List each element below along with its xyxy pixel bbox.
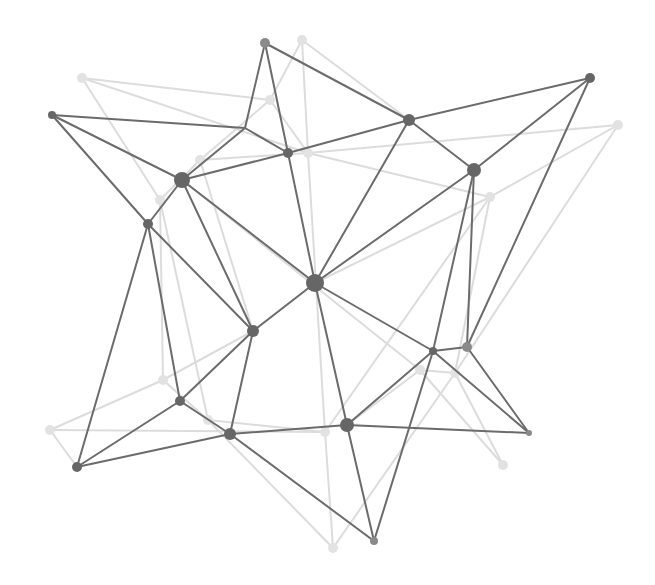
- dark-node: [526, 430, 532, 436]
- light-node: [498, 460, 508, 470]
- light-node: [328, 543, 338, 553]
- dark-node: [247, 325, 259, 337]
- dark-node: [224, 428, 236, 440]
- dark-node: [370, 537, 378, 545]
- light-node: [45, 425, 55, 435]
- background: [0, 0, 655, 585]
- dark-node: [462, 342, 472, 352]
- dark-node: [306, 274, 324, 292]
- dark-node: [260, 38, 270, 48]
- dark-node: [403, 114, 415, 126]
- dark-node: [48, 111, 56, 119]
- dark-node: [174, 172, 190, 188]
- network-diagram: [0, 0, 655, 585]
- dark-node: [467, 163, 481, 177]
- dark-node: [175, 396, 185, 406]
- light-node: [265, 95, 275, 105]
- dark-node: [429, 347, 437, 355]
- light-node: [77, 73, 87, 83]
- dark-node: [283, 148, 293, 158]
- light-node: [158, 375, 168, 385]
- dark-node: [340, 418, 354, 432]
- dark-node: [143, 219, 153, 229]
- dark-node: [72, 462, 82, 472]
- light-node: [485, 192, 495, 202]
- light-node: [613, 120, 623, 130]
- light-node: [297, 35, 307, 45]
- light-node: [320, 427, 330, 437]
- dark-node: [585, 73, 595, 83]
